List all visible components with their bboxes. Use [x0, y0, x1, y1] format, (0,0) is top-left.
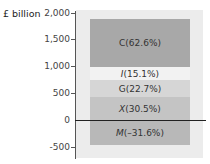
segment-x-pct: (30.5%): [125, 104, 161, 114]
y-tick-neg500: -500: [50, 142, 70, 152]
segment-g: G (22.7%): [90, 80, 190, 97]
segment-m-pct: (–31.6%): [124, 128, 164, 138]
segment-g-letter: G: [119, 84, 126, 94]
segment-g-pct: (22.7%): [126, 84, 162, 94]
y-tick-1500: 1,500: [44, 34, 70, 44]
segment-x: X (30.5%): [90, 97, 190, 120]
segment-i-pct: (15.1%): [124, 69, 160, 79]
y-tick-1000: 1,000: [44, 61, 70, 71]
y-tick-0: 0: [64, 115, 70, 125]
segment-i: I (15.1%): [90, 67, 190, 80]
segment-m-letter: M: [116, 128, 124, 138]
segment-m: M (–31.6%): [90, 121, 190, 145]
y-axis-line: [75, 11, 76, 159]
segment-c: C (62.6%): [90, 19, 190, 67]
zero-line: [75, 120, 206, 121]
segment-c-pct: (62.6%): [125, 38, 161, 48]
y-tick-2000: 2,000: [44, 8, 70, 18]
y-axis-title: £ billion: [3, 8, 41, 19]
y-tick-500: 500: [53, 88, 70, 98]
